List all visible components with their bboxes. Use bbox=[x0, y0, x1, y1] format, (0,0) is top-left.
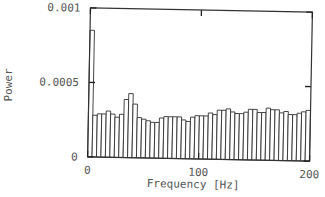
power-spectrum-chart: 00.00050.001 0100200 Frequency [Hz] Powe… bbox=[0, 0, 325, 197]
x-axis-label: Frequency [Hz] bbox=[147, 177, 240, 192]
y-tick-label: 0.001 bbox=[47, 1, 80, 15]
y-tick-labels: 00.00050.001 bbox=[38, 1, 81, 164]
y-axis-label: Power bbox=[2, 68, 15, 101]
x-tick-label: 0 bbox=[84, 164, 91, 177]
histogram-bars bbox=[88, 30, 312, 161]
plot-area: 00.00050.001 0100200 Frequency [Hz] bbox=[37, 1, 322, 193]
x-tick-label: 200 bbox=[299, 168, 319, 181]
y-tick-label: 0.0005 bbox=[39, 75, 79, 89]
y-tick-label: 0 bbox=[71, 151, 78, 164]
